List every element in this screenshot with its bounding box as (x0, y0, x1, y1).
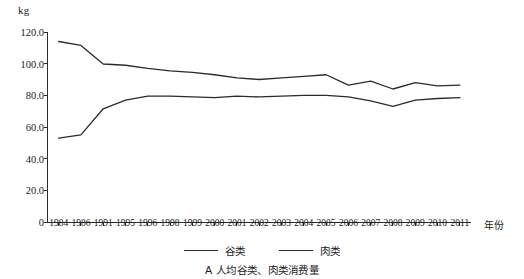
series-line (59, 42, 460, 90)
series-line (59, 95, 460, 138)
x-axis-title: 年份 (484, 217, 504, 232)
y-tick-label: 60.0 (4, 122, 44, 133)
y-tick-label: 40.0 (4, 153, 44, 164)
plot-area (0, 0, 524, 279)
y-axis-tick-labels: 020.040.060.080.0100.0120.0 (0, 0, 44, 279)
data-series-group (59, 42, 460, 139)
chart-legend: 谷类肉类 (0, 243, 524, 258)
x-tick-label: 2003 (272, 218, 291, 228)
legend-item[interactable]: 肉类 (279, 243, 340, 258)
y-tick-label: 100.0 (4, 58, 44, 69)
x-tick-label: 2005 (317, 218, 336, 228)
legend-label: 肉类 (320, 243, 340, 258)
y-tick-label: 20.0 (4, 185, 44, 196)
x-tick-label: 1999 (183, 218, 202, 228)
x-tick-label: 2011 (451, 218, 470, 228)
x-tick-label: 2001 (227, 218, 246, 228)
chart-caption: A 人均谷类、肉类消费量 (0, 262, 524, 277)
legend-label: 谷类 (225, 243, 245, 258)
axis-lines (44, 32, 471, 226)
y-tick-label: 0 (4, 217, 44, 228)
legend-line-icon (184, 250, 218, 251)
x-tick-label: 2008 (383, 218, 402, 228)
x-tick-label: 2010 (428, 218, 447, 228)
x-tick-label: 2004 (294, 218, 313, 228)
x-tick-label: 2000 (205, 218, 224, 228)
x-tick-label: 1984 (49, 218, 68, 228)
x-tick-label: 1998 (161, 218, 180, 228)
x-tick-label: 2007 (361, 218, 380, 228)
x-tick-label: 1996 (138, 218, 157, 228)
x-tick-label: 2009 (406, 218, 425, 228)
x-tick-label: 2002 (250, 218, 269, 228)
chart-container: kg 020.040.060.080.0100.0120.0 198419861… (0, 0, 524, 279)
y-tick-label: 120.0 (4, 27, 44, 38)
legend-line-icon (279, 250, 313, 251)
legend-item[interactable]: 谷类 (184, 243, 245, 258)
x-tick-label: 1991 (94, 218, 113, 228)
y-tick-label: 80.0 (4, 90, 44, 101)
x-tick-label: 1995 (116, 218, 135, 228)
x-tick-label: 2006 (339, 218, 358, 228)
x-tick-label: 1986 (71, 218, 90, 228)
